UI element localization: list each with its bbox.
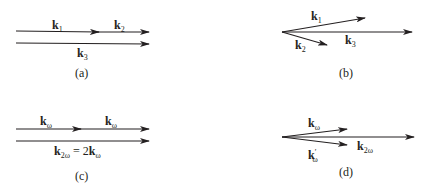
label-d-k2w: k2ω (357, 140, 373, 157)
label-b-k3: k3 (345, 34, 356, 51)
caption-b: (b) (339, 67, 353, 79)
label-d-kw-prime: k′ω (308, 147, 318, 166)
label-a-k3: k3 (77, 47, 88, 64)
label-d-kw: kω (308, 117, 320, 134)
label-c-kw2: kω (105, 115, 117, 132)
caption-c: (c) (75, 170, 88, 182)
label-b-k1: k1 (311, 10, 322, 27)
caption-a: (a) (75, 67, 88, 79)
label-a-k2: k2 (114, 19, 125, 36)
arrow-b-k1 (282, 18, 365, 32)
arrow-d-kw-prime (282, 137, 347, 145)
label-c-equation: k2ω = 2kω (54, 145, 101, 162)
label-c-kw1: kω (40, 115, 52, 132)
label-b-k2: k2 (295, 39, 306, 56)
label-a-k1: k1 (52, 19, 63, 36)
arrow-a-k3 (16, 43, 149, 44)
caption-d: (d) (339, 166, 353, 178)
